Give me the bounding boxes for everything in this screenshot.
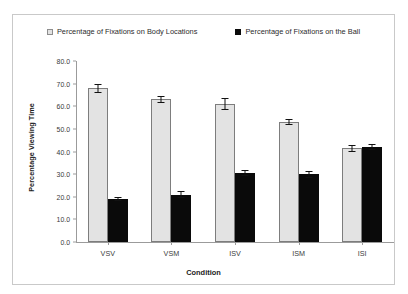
bar[interactable]: [151, 99, 171, 242]
x-axis-tick-label: VSM: [140, 249, 204, 258]
bar[interactable]: [215, 104, 235, 242]
bar[interactable]: [235, 173, 255, 242]
legend-label-ball: Percentage of Fixations on the Ball: [245, 27, 360, 36]
x-axis-tick-label: ISM: [267, 249, 331, 258]
error-bar: [161, 96, 162, 103]
bar-slot: [342, 148, 362, 242]
x-axis-tick-mark: [235, 242, 236, 245]
bar-slot: [108, 199, 128, 242]
x-axis-tick-mark: [299, 242, 300, 245]
bar[interactable]: [171, 195, 191, 243]
x-axis-tick-label: VSV: [76, 249, 140, 258]
error-bar: [224, 98, 225, 109]
bar-slot: [299, 174, 319, 242]
error-bar: [244, 170, 245, 177]
x-axis-tick-label: ISV: [203, 249, 267, 258]
bar[interactable]: [299, 174, 319, 242]
bar[interactable]: [108, 199, 128, 242]
bar[interactable]: [88, 88, 108, 242]
x-axis-title: Condition: [13, 268, 394, 277]
bar-group: VSV: [76, 61, 140, 242]
bar-group: ISV: [203, 61, 267, 242]
x-axis-tick-mark: [362, 242, 363, 245]
bar-slot: [235, 173, 255, 242]
error-bar: [352, 145, 353, 152]
bar-slot: [215, 104, 235, 242]
bar-groups: VSVVSMISVISMISI: [76, 61, 394, 242]
chart-legend: Percentage of Fixations on Body Location…: [13, 27, 394, 36]
x-axis-tick-mark: [108, 242, 109, 245]
error-bar: [117, 197, 118, 202]
bar-slot: [88, 88, 108, 242]
error-bar: [372, 144, 373, 151]
bar-slot: [279, 122, 299, 242]
error-bar: [97, 84, 98, 93]
y-axis-title: Percentage Viewing Time: [27, 73, 36, 223]
bar-group: VSM: [140, 61, 204, 242]
error-bar: [181, 191, 182, 198]
legend-item-body-locations: Percentage of Fixations on Body Location…: [47, 27, 198, 36]
bar-slot: [362, 147, 382, 242]
error-bar: [308, 171, 309, 178]
legend-swatch-filled-square-icon: [235, 29, 241, 35]
bar-group: ISM: [267, 61, 331, 242]
bar[interactable]: [342, 148, 362, 242]
chart-figure: Percentage of Fixations on Body Location…: [12, 14, 395, 285]
legend-label-body-locations: Percentage of Fixations on Body Location…: [57, 27, 198, 36]
bar-group: ISI: [330, 61, 394, 242]
bar-slot: [151, 99, 171, 242]
bar-slot: [171, 195, 191, 243]
bar[interactable]: [362, 147, 382, 242]
x-axis-tick-label: ISI: [330, 249, 394, 258]
error-bar: [288, 119, 289, 126]
plot-area: 80.070.060.050.040.030.020.010.00.0 VSVV…: [76, 61, 394, 243]
legend-item-ball: Percentage of Fixations on the Ball: [235, 27, 360, 36]
legend-swatch-open-square-icon: [47, 29, 53, 35]
bar[interactable]: [279, 122, 299, 242]
x-axis-tick-mark: [171, 242, 172, 245]
